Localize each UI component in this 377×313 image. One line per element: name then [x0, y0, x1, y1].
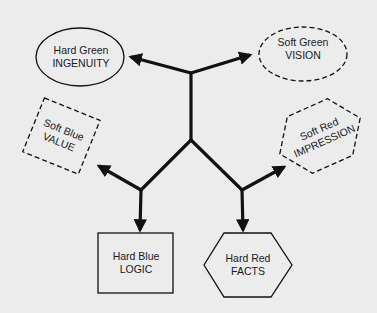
- ingenuity-label-line1: Hard Green: [54, 44, 109, 56]
- facts-label-line1: Hard Red: [226, 252, 271, 264]
- branching-diagram: Hard Green INGENUITY Soft Green VISION S…: [0, 0, 377, 313]
- node-logic: Hard Blue LOGIC: [98, 233, 173, 293]
- arrow-to-logic: [140, 190, 141, 230]
- branch-line-right: [191, 140, 242, 190]
- arrow-to-vision: [191, 55, 250, 73]
- arrow-to-ingenuity: [131, 57, 191, 73]
- facts-label-line2: FACTS: [231, 265, 265, 277]
- logic-label-line1: Hard Blue: [113, 250, 160, 262]
- node-value: Soft Blue VALUE: [23, 98, 100, 174]
- logic-label-line2: LOGIC: [120, 263, 153, 275]
- connector-lines: [141, 73, 242, 190]
- arrow-to-value: [99, 166, 141, 190]
- vision-label-line1: Soft Green: [278, 36, 329, 48]
- node-facts: Hard Red FACTS: [204, 233, 292, 297]
- diagram-canvas: Hard Green INGENUITY Soft Green VISION S…: [0, 0, 377, 313]
- ingenuity-label-line2: INGENUITY: [52, 57, 109, 69]
- branch-line-left: [141, 140, 191, 190]
- node-ingenuity: Hard Green INGENUITY: [36, 28, 124, 86]
- vision-label-line2: VISION: [285, 49, 321, 61]
- arrow-to-impression: [242, 167, 284, 190]
- node-vision: Soft Green VISION: [259, 27, 347, 81]
- arrow-to-facts: [242, 190, 243, 230]
